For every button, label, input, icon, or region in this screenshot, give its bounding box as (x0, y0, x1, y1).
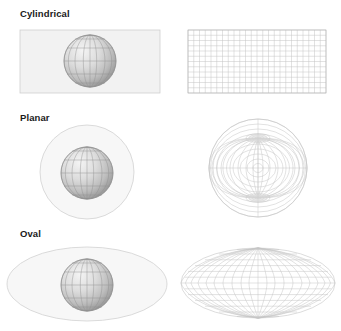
globe-planar (61, 147, 113, 199)
projection-families-diagram: Cylindrical (0, 0, 341, 331)
cylindrical-surface-figure (0, 24, 175, 104)
globe-cylindrical (64, 35, 116, 87)
planar-south-pole-marker (248, 194, 268, 201)
planar-north-pole-marker (248, 134, 268, 141)
oval-surface-figure (0, 238, 175, 331)
cylindrical-projection-figure (175, 24, 341, 104)
oval-graticule (181, 248, 335, 318)
cylindrical-graticule (188, 30, 326, 93)
oval-projection-figure (175, 238, 341, 331)
planar-projection-figure (175, 112, 341, 222)
planar-surface-figure (0, 120, 175, 225)
globe-oval (61, 259, 113, 311)
row-label-cylindrical: Cylindrical (20, 8, 70, 19)
planar-graticule (209, 119, 307, 217)
